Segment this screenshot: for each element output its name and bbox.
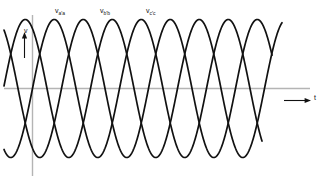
curve-label-phase-b-symbol: v (100, 7, 104, 14)
y-axis-label: v (24, 27, 28, 34)
t-axis-arrow-icon (284, 98, 311, 103)
curve-label-phase-c: vc′c (146, 7, 155, 14)
curve-label-phase-a-subscript: a′a (59, 10, 66, 16)
waveform-plot (0, 0, 323, 180)
three-phase-waveform-figure: va′a vb′b vc′c v t (0, 0, 323, 180)
curve-label-phase-c-symbol: v (146, 7, 150, 14)
curve-label-phase-c-subscript: c′c (150, 10, 156, 16)
curve-label-phase-b-subscript: b′b (104, 10, 111, 16)
curve-label-phase-a: va′a (55, 7, 65, 14)
v-axis-arrow-icon (22, 32, 27, 58)
curve-label-phase-a-symbol: v (55, 7, 59, 14)
curve-label-phase-b: vb′b (100, 7, 110, 14)
x-axis-label: t (314, 94, 316, 101)
